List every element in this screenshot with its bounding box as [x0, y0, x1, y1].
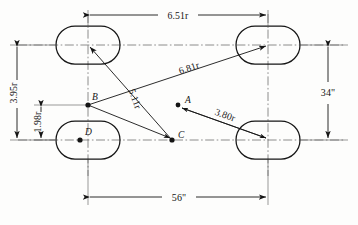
diagram-canvas: 6.51r 56" 3.95r 1.98r — [0, 0, 358, 225]
dimension-label-diagonal-short: 5.11r — [127, 87, 145, 111]
dimension-height-partial: 1.98r — [32, 105, 88, 140]
chassis-diagram: 6.51r 56" 3.95r 1.98r — [0, 0, 358, 225]
point-marker-c — [169, 137, 174, 142]
dimension-label-height-total: 3.95r — [8, 82, 19, 104]
point-marker-a — [176, 103, 181, 108]
dimension-right-height: 34" — [300, 45, 348, 140]
vector-radius-a: 3.80r — [182, 106, 266, 138]
dimension-label-top-width: 6.51r — [168, 10, 190, 21]
point-label-c: C — [178, 130, 185, 140]
vector-diagonal-short: 5.11r — [88, 47, 172, 140]
dimension-label-radius-a: 3.80r — [213, 106, 237, 124]
point-label-a: A — [184, 95, 191, 105]
dimension-label-height-partial: 1.98r — [32, 111, 43, 133]
dimension-bottom-width: 56" — [88, 160, 268, 205]
dimension-label-bottom-width: 56" — [172, 192, 186, 203]
point-label-b: B — [92, 92, 98, 102]
point-marker-d — [77, 137, 82, 142]
dimension-label-diagonal-long: 6.81r — [177, 59, 201, 76]
dimension-top-width: 6.51r — [88, 10, 268, 29]
dimension-label-right-height: 34" — [321, 87, 335, 98]
point-label-d: D — [84, 127, 92, 137]
point-marker-b — [85, 102, 90, 107]
centerlines — [18, 14, 344, 176]
